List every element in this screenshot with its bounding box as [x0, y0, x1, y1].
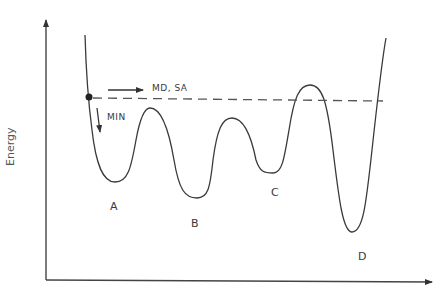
minimum-label-d: D [358, 251, 366, 262]
minimum-label-a: A [110, 201, 118, 212]
min-label: MIN [107, 113, 126, 122]
energy-curve [85, 35, 386, 232]
x-axis [46, 280, 432, 282]
y-axis-label: Energy [4, 127, 17, 166]
md-sa-label: MD, SA [152, 84, 187, 93]
minimum-label-b: B [191, 218, 199, 229]
energy-level-dashed-line [93, 98, 383, 101]
minimum-label-c: C [271, 187, 279, 198]
start-point-dot [86, 94, 93, 101]
energy-diagram [0, 0, 443, 291]
min-arrow-icon [97, 108, 100, 132]
